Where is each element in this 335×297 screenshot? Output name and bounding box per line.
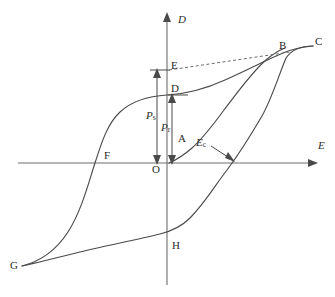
point-f-label: F (104, 150, 110, 161)
ec-symbol: E (196, 136, 203, 148)
ec-subscript: c (203, 140, 206, 149)
remanent-polarization-label: Pr (161, 122, 170, 134)
point-e-label: E (171, 60, 178, 71)
ps-symbol: P (146, 109, 153, 121)
point-d-label: D (171, 83, 179, 94)
pr-subscript: r (168, 125, 171, 134)
y-axis-label: D (178, 14, 186, 25)
point-a-label: A (178, 133, 186, 144)
origin-label: O (152, 164, 160, 175)
ps-subscript: s (153, 113, 156, 122)
point-b-label: B (279, 40, 286, 51)
saturation-polarization-label: Ps (146, 110, 156, 122)
point-c-label: C (315, 36, 322, 47)
ec-pointer-arrow (211, 146, 235, 162)
coercive-field-label: Ec (196, 137, 206, 149)
ps-extrapolation-dashed-line (169, 52, 290, 70)
pr-symbol: P (161, 121, 168, 133)
hysteresis-figure: D E O E D A B C F G H Ps Pr Ec (0, 0, 335, 297)
point-h-label: H (172, 240, 180, 251)
x-axis-label: E (318, 140, 325, 151)
ec-arrow-head (225, 152, 235, 162)
point-g-label: G (10, 260, 18, 271)
x-axis-arrowhead (308, 159, 318, 167)
axes-group (18, 12, 318, 285)
y-axis-arrowhead (163, 12, 171, 22)
